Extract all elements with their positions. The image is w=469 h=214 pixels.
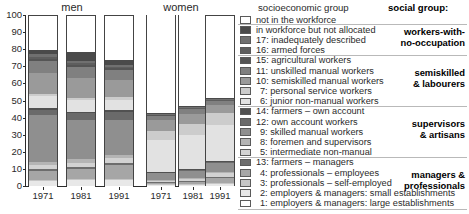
bar-segment[interactable]: [105, 100, 133, 111]
bar-segment[interactable]: [105, 67, 133, 69]
bar-segment[interactable]: [67, 179, 95, 180]
bar-segment[interactable]: [206, 105, 234, 113]
bar-segment[interactable]: [105, 155, 133, 159]
bar-segment[interactable]: [67, 65, 95, 67]
bar-segment[interactable]: [179, 107, 207, 108]
bar-segment[interactable]: [29, 57, 57, 59]
bar-segment[interactable]: [206, 99, 234, 100]
bar-segment[interactable]: [206, 16, 234, 98]
bar-segment[interactable]: [105, 65, 133, 67]
bar-segment[interactable]: [29, 115, 57, 161]
stacked-bar[interactable]: [104, 15, 134, 186]
bar-segment[interactable]: [29, 73, 57, 94]
bar-segment[interactable]: [105, 158, 133, 163]
bar-segment[interactable]: [29, 96, 57, 108]
bar-segment[interactable]: [67, 163, 95, 167]
bar-segment[interactable]: [105, 70, 133, 79]
bar-segment[interactable]: [206, 177, 234, 183]
bar-segment[interactable]: [67, 167, 95, 169]
bar-segment[interactable]: [206, 125, 234, 161]
bar-segment[interactable]: [147, 131, 175, 140]
stacked-bar[interactable]: [205, 15, 235, 186]
bar-segment[interactable]: [179, 108, 207, 109]
bar-segment[interactable]: [206, 184, 234, 187]
bar-segment[interactable]: [147, 113, 175, 114]
stacked-bar[interactable]: [66, 15, 96, 186]
bar-segment[interactable]: [105, 165, 133, 179]
bar-segment[interactable]: [147, 120, 175, 130]
bar-segment[interactable]: [105, 163, 133, 165]
bar-segment[interactable]: [67, 169, 95, 179]
bar-segment[interactable]: [29, 50, 57, 54]
bar-segment[interactable]: [179, 15, 207, 106]
bar-segment[interactable]: [29, 59, 57, 62]
bar-segment[interactable]: [147, 140, 175, 172]
bar-segment[interactable]: [206, 173, 234, 177]
bar-segment[interactable]: [179, 171, 207, 178]
stacked-bar[interactable]: [28, 15, 58, 186]
bar-segment[interactable]: [179, 178, 207, 179]
bar-segment[interactable]: [206, 100, 234, 101]
bar-segment[interactable]: [105, 16, 133, 60]
bar-segment[interactable]: [29, 61, 57, 73]
bar-segment[interactable]: [179, 109, 207, 114]
bar-segment[interactable]: [67, 180, 95, 186]
bar-segment[interactable]: [147, 172, 175, 173]
bar-segment[interactable]: [29, 108, 57, 110]
bar-segment[interactable]: [67, 112, 95, 114]
bar-segment[interactable]: [67, 16, 95, 52]
bar-segment[interactable]: [206, 161, 234, 163]
bar-segment[interactable]: [105, 110, 133, 112]
bar-segment[interactable]: [67, 78, 95, 98]
bar-segment[interactable]: [179, 135, 207, 169]
bar-segment[interactable]: [206, 98, 234, 100]
bar-segment[interactable]: [67, 159, 95, 163]
bar-segment[interactable]: [29, 18, 57, 50]
bar-segment[interactable]: [29, 171, 57, 180]
bar-segment[interactable]: [67, 63, 95, 65]
bar-segment[interactable]: [147, 15, 175, 112]
bar-segment[interactable]: [105, 97, 133, 100]
bar-segment[interactable]: [67, 100, 95, 111]
bar-segment[interactable]: [67, 113, 95, 119]
bar-segment[interactable]: [206, 101, 234, 105]
bar-segment[interactable]: [147, 180, 175, 181]
bar-segment[interactable]: [105, 112, 133, 121]
bar-segment[interactable]: [29, 162, 57, 166]
bar-segment[interactable]: [206, 163, 234, 172]
bar-segment[interactable]: [29, 165, 57, 169]
bar-segment[interactable]: [29, 180, 57, 181]
bar-segment[interactable]: [179, 114, 207, 124]
bar-segment[interactable]: [105, 179, 133, 180]
bar-segment[interactable]: [105, 68, 133, 70]
bar-segment[interactable]: [179, 169, 207, 171]
bar-segment[interactable]: [206, 113, 234, 125]
bar-segment[interactable]: [147, 115, 175, 116]
bar-segment[interactable]: [179, 106, 207, 108]
bar-segment[interactable]: [67, 61, 95, 63]
bar-segment[interactable]: [179, 124, 207, 135]
bar-segment[interactable]: [29, 54, 57, 56]
bar-segment[interactable]: [147, 183, 175, 185]
bar-segment[interactable]: [206, 183, 234, 184]
bar-segment[interactable]: [67, 120, 95, 159]
bar-segment[interactable]: [105, 120, 133, 154]
bar-segment[interactable]: [147, 181, 175, 183]
bar-segment[interactable]: [105, 180, 133, 186]
bar-segment[interactable]: [29, 169, 57, 171]
bar-segment[interactable]: [29, 181, 57, 186]
stacked-bar[interactable]: [178, 15, 208, 186]
bar-segment[interactable]: [105, 60, 133, 64]
bar-segment[interactable]: [29, 110, 57, 115]
bar-segment[interactable]: [67, 67, 95, 78]
bar-segment[interactable]: [206, 172, 234, 173]
bar-segment[interactable]: [147, 173, 175, 179]
bar-segment[interactable]: [67, 52, 95, 61]
bar-segment[interactable]: [147, 115, 175, 120]
stacked-bar[interactable]: [146, 15, 176, 186]
bar-segment[interactable]: [67, 98, 95, 100]
bar-segment[interactable]: [147, 114, 175, 115]
bar-segment[interactable]: [29, 94, 57, 96]
bar-segment[interactable]: [179, 182, 207, 184]
bar-segment[interactable]: [179, 179, 207, 181]
